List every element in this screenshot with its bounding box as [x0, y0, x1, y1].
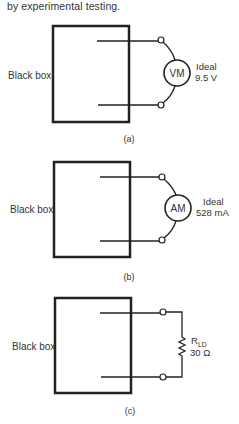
meter-wire-bottom-b	[164, 221, 176, 238]
load-wire-c	[166, 312, 185, 377]
caption-a: (a)	[124, 134, 135, 144]
reading-title-b: Ideal	[203, 196, 224, 207]
terminal-bottom-c	[160, 374, 166, 380]
reading-title-a: Ideal	[196, 61, 217, 72]
meter-label-b: AM	[171, 203, 186, 214]
resistor-label: RLD	[191, 335, 207, 348]
reading-value-b: 528 mA	[196, 207, 229, 218]
reading-value-a: 9.5 V	[195, 72, 218, 83]
panel-c: Black box RLD 30 Ω (c)	[12, 298, 210, 416]
caption-c: (c)	[125, 406, 136, 416]
terminal-top-c	[160, 309, 166, 315]
black-box-c	[55, 298, 131, 393]
meter-label-a: VM	[170, 68, 185, 79]
black-box-label-c: Black box	[12, 341, 55, 352]
panel-b: Black box AM Ideal 528 mA (b)	[10, 162, 229, 282]
panel-a: Black box VM Ideal 9.5 V (a)	[8, 26, 218, 144]
meter-wire-top-b	[164, 179, 176, 195]
black-box-label-b: Black box	[10, 204, 53, 215]
black-box-diagram: Black box VM Ideal 9.5 V (a) Black box A…	[0, 0, 239, 424]
meter-wire-bottom-a	[163, 86, 175, 103]
black-box-b	[54, 162, 130, 257]
meter-wire-top-a	[163, 42, 175, 60]
resistor-value: 30 Ω	[190, 347, 210, 358]
black-box-label-a: Black box	[8, 70, 51, 81]
caption-b: (b)	[124, 272, 135, 282]
